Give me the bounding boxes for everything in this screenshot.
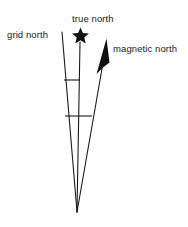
- star-icon: [72, 28, 89, 44]
- grid-north-line: [62, 32, 77, 212]
- true-north-line: [77, 42, 80, 212]
- declination-diagram: grid north true north magnetic north: [0, 0, 188, 227]
- grid-north-label: grid north: [7, 29, 48, 40]
- magnetic-north-line: [77, 63, 103, 212]
- magnetic-north-label: magnetic north: [113, 43, 177, 54]
- filled-arrowhead-icon: [97, 39, 110, 75]
- true-north-label: true north: [72, 13, 114, 24]
